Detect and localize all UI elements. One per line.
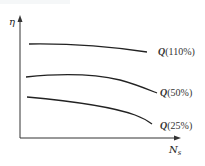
curve-q110 [29,44,147,52]
x-axis-arrow-icon [174,136,181,141]
y-axis-label: η [9,16,15,27]
x-axis-label: Ns [168,144,182,157]
label-q110: Q(110%) [158,46,195,58]
efficiency-chart: η Ns Q(110%) Q(50%) Q(25%) [0,0,205,166]
label-q50: Q(50%) [160,87,192,99]
y-axis-arrow-icon [18,15,23,22]
curve-q25 [27,97,152,124]
curve-q50 [26,75,157,93]
axes [18,15,182,141]
label-q25: Q(25%) [160,120,192,132]
